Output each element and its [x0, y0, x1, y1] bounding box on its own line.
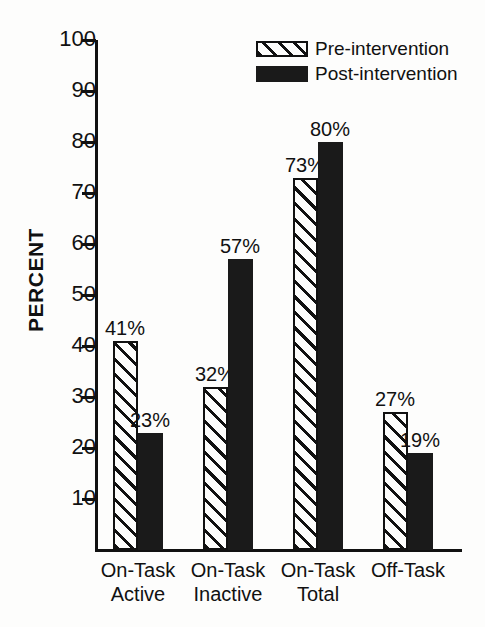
category-line-1: On-Task [101, 559, 175, 581]
bar-group: 32%57% [203, 40, 253, 550]
bar-post-intervention[interactable] [408, 453, 433, 550]
bar-value-label: 57% [209, 236, 271, 256]
x-axis-category-label: Off-Task [356, 558, 460, 582]
bar-group: 41%23% [113, 40, 163, 550]
x-axis-category-label: On-TaskInactive [176, 558, 280, 607]
bar-value-label: 23% [119, 410, 181, 430]
bar-group: 73%80% [293, 40, 343, 550]
chart-legend: Pre-intervention Post-intervention [256, 36, 458, 86]
x-axis-category-label: On-TaskTotal [266, 558, 370, 607]
y-tick-mark [82, 243, 96, 246]
legend-label-pre: Pre-intervention [315, 38, 449, 60]
bar-value-label: 19% [389, 430, 451, 450]
y-tick-mark [82, 294, 96, 297]
bar-value-label: 27% [364, 389, 426, 409]
category-line-1: Off-Task [371, 559, 445, 581]
bar-value-label: 41% [94, 318, 156, 338]
bar-value-label: 80% [299, 119, 361, 139]
y-tick-mark [82, 141, 96, 144]
category-line-1: On-Task [281, 559, 355, 581]
bar-group: 27%19% [383, 40, 433, 550]
y-tick-mark [82, 39, 96, 42]
bar-pre-intervention[interactable] [113, 341, 138, 550]
y-tick-mark [82, 192, 96, 195]
category-line-2: Inactive [176, 582, 280, 606]
y-tick-mark [82, 345, 96, 348]
plot-area: 41%23%32%57%73%80%27%19% [95, 40, 462, 550]
bar-pre-intervention[interactable] [293, 178, 318, 550]
category-line-2: Active [86, 582, 190, 606]
bar-post-intervention[interactable] [228, 259, 253, 550]
category-line-1: On-Task [191, 559, 265, 581]
legend-item-post-intervention[interactable]: Post-intervention [256, 61, 458, 86]
y-tick-mark [82, 498, 96, 501]
legend-label-post: Post-intervention [315, 63, 458, 85]
bar-pre-intervention[interactable] [203, 387, 228, 550]
y-tick-mark [82, 396, 96, 399]
category-line-2: Total [266, 582, 370, 606]
y-tick-mark [82, 90, 96, 93]
y-tick-mark [82, 447, 96, 450]
y-axis-title: PERCENT [24, 220, 48, 340]
solid-swatch-icon [256, 66, 308, 82]
legend-item-pre-intervention[interactable]: Pre-intervention [256, 36, 458, 61]
bar-post-intervention[interactable] [138, 433, 163, 550]
chart-page: PERCENT 100908070605040302010 41%23%32%5… [0, 0, 485, 627]
hatched-swatch-icon [256, 41, 308, 57]
bar-post-intervention[interactable] [318, 142, 343, 550]
x-axis-category-label: On-TaskActive [86, 558, 190, 607]
